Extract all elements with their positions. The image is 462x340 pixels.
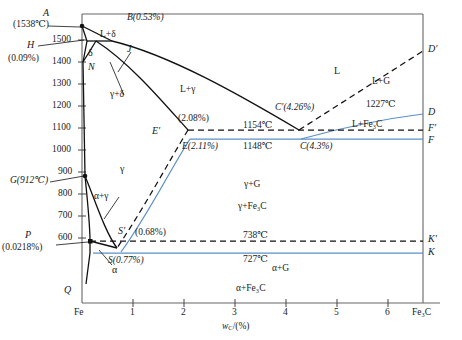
point-label-F: F	[428, 135, 434, 145]
solid-phase-boundaries	[82, 26, 299, 284]
point-label-E: E(2.11%)	[182, 142, 218, 152]
x-tick-5: 5	[334, 308, 339, 318]
region-label-alpha-G: α+G	[272, 264, 289, 274]
point-label-A: A	[43, 8, 49, 18]
point-label-H: H	[27, 40, 34, 50]
region-label-L-Fe3C: L+Fe₃C	[352, 120, 382, 130]
x-axis-title-tail: /(%)	[233, 321, 250, 331]
point-label-F-prime: F′	[428, 123, 436, 133]
region-label-alpha-gamma: α+γ	[94, 192, 109, 202]
y-tick-1200: 1200	[52, 101, 71, 111]
region-label-L: L	[334, 66, 340, 76]
x-tick-Fe: Fe	[74, 308, 84, 318]
temp-label-727: 727℃	[243, 255, 268, 265]
point-label-K-prime: K′	[428, 234, 437, 244]
point-label-B: B(0.53%)	[127, 13, 164, 23]
y-tick-1500: 1500	[52, 35, 71, 45]
point-label-C-prime: C′(4.26%)	[275, 103, 314, 113]
temp-label-1227: 1227℃	[366, 100, 396, 110]
x-tick-1: 1	[130, 308, 135, 318]
region-label-gamma-delta: γ+δ	[110, 90, 124, 100]
region-label-L-gamma: L+γ	[180, 85, 195, 95]
region-label-gamma: γ	[120, 164, 124, 174]
y-tick-700: 700	[58, 211, 72, 221]
region-label-L-G: L+G	[372, 77, 390, 87]
temp-label-738: 738℃	[243, 231, 268, 241]
x-tick-6: 6	[385, 308, 390, 318]
point-label-D: D	[428, 107, 435, 117]
temp-label-1148: 1148℃	[243, 142, 272, 152]
region-label-delta: δ	[88, 48, 93, 58]
point-label-N: N	[88, 62, 95, 72]
temp-label-1154: 1154℃	[243, 121, 272, 131]
region-label-alpha: α	[112, 265, 117, 275]
x-tick-Fe3C: Fe₃C	[412, 308, 431, 318]
region-label-gamma-G: γ+G	[244, 180, 260, 190]
x-tick-3: 3	[232, 308, 237, 318]
point-label-P-pct: (0.0218%)	[2, 243, 42, 253]
point-label-H-pct: (0.09%)	[8, 54, 39, 64]
region-label-L-delta: L+δ	[100, 30, 116, 40]
point-label-E-prime: E′	[152, 126, 160, 136]
y-tick-1400: 1400	[52, 57, 71, 67]
point-label-K: K	[428, 247, 435, 257]
region-label-alpha-Fe3C: α+Fe₃C	[236, 284, 265, 294]
point-label-S-prime: S′	[118, 226, 125, 236]
y-tick-900: 900	[58, 167, 72, 177]
x-tick-4: 4	[283, 308, 288, 318]
point-label-A-temp: (1538℃)	[13, 20, 49, 30]
y-tick-800: 800	[58, 189, 72, 199]
point-label-D-prime: D′	[428, 44, 437, 54]
region-label-gamma-Fe3C: γ+Fe₃C	[238, 202, 267, 212]
point-label-0-68-pct: (0.68%)	[135, 228, 166, 238]
point-label-J: J	[127, 44, 131, 54]
point-label-2-08-pct: (2.08%)	[178, 114, 209, 124]
point-label-C: C(4.3%)	[300, 142, 332, 152]
x-axis-title: wC/(%)	[222, 322, 250, 332]
point-label-G: G(912℃)	[10, 176, 48, 186]
y-tick-1300: 1300	[52, 79, 71, 89]
x-tick-2: 2	[181, 308, 186, 318]
point-label-Q: Q	[64, 285, 71, 295]
y-tick-1100: 1100	[52, 123, 71, 133]
y-tick-1000: 1000	[52, 145, 71, 155]
y-tick-600: 600	[58, 233, 72, 243]
point-label-P: P	[25, 230, 31, 240]
